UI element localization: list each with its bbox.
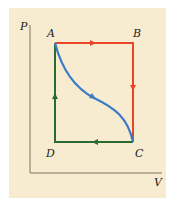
arrow-right-icon xyxy=(90,40,96,46)
path-ac-curve xyxy=(55,43,133,142)
arrow-up-icon xyxy=(52,93,58,99)
pv-diagram: P V A B C D xyxy=(0,0,176,205)
arrow-left-icon xyxy=(92,139,98,145)
v-axis-label: V xyxy=(154,176,163,189)
point-c-label: C xyxy=(135,147,144,160)
point-b-label: B xyxy=(132,27,141,40)
path-abc xyxy=(55,40,136,142)
point-d-label: D xyxy=(45,147,55,160)
p-axis-label: P xyxy=(19,20,28,33)
point-a-label: A xyxy=(46,27,55,40)
arrow-down-icon xyxy=(130,85,136,91)
